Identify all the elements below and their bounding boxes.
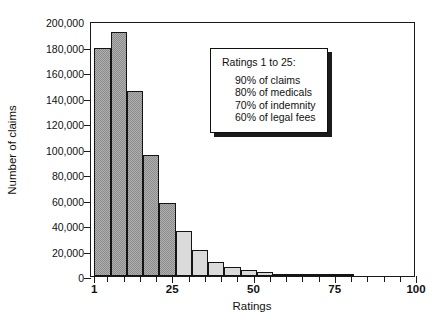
histogram-bar [224,267,240,276]
x-axis-tick-minor [107,276,108,282]
y-axis-tick-label: 80,000 [52,171,84,182]
x-axis-tick-minor [367,276,368,282]
chart-figure: Number of claims Ratings 020,00040,00060… [0,0,443,327]
x-axis-tick-minor [270,276,271,282]
x-axis-tick-minor [156,276,157,282]
x-axis-tick-minor [124,276,125,282]
y-axis-tick-label: 40,000 [52,222,84,233]
x-axis-tick-major [94,276,95,283]
y-axis-tick [84,151,91,152]
x-axis-title: Ratings [233,300,272,312]
x-axis-tick-major [416,276,417,283]
x-axis-tick-minor [140,276,141,282]
annotation-line: 80% of medicals [222,86,316,98]
y-axis-tick-label: 200,000 [46,18,84,29]
histogram-bar [322,274,338,276]
y-axis-tick-label: 60,000 [52,196,84,207]
y-axis-tick [84,202,91,203]
histogram-bar [289,274,305,276]
x-axis-tick-minor [302,276,303,282]
y-axis-tick [84,74,91,75]
annotation-box: Ratings 1 to 25: 90% of claims 80% of me… [210,48,328,133]
x-axis-tick-major [254,276,255,283]
x-axis-tick-minor [319,276,320,282]
x-axis-tick-label: 25 [166,284,179,296]
histogram-bar [143,155,159,276]
x-axis-tick-label: 75 [328,284,341,296]
annotation-heading: Ratings 1 to 25: [222,56,316,69]
y-axis-title: Number of claims [6,105,18,194]
x-axis-tick-minor [351,276,352,282]
histogram-bar [176,231,192,276]
histogram-bar [257,272,273,276]
annotation-line: 90% of claims [222,74,316,86]
x-axis-tick-label: 100 [406,284,425,296]
x-axis-tick-major [172,276,173,283]
annotation-content: Ratings 1 to 25: 90% of claims 80% of me… [210,48,328,133]
histogram-bar [208,262,224,276]
y-axis-tick-label: 180,000 [46,43,84,54]
y-axis-tick [84,253,91,254]
x-axis-tick-minor [221,276,222,282]
x-axis-tick-major [335,276,336,283]
y-axis-tick [84,227,91,228]
x-axis-tick-minor [205,276,206,282]
annotation-line: 60% of legal fees [222,111,316,123]
y-axis-tick [84,176,91,177]
y-axis-tick [84,100,91,101]
y-axis-tick-label: 20,000 [52,247,84,258]
x-axis-tick-label: 1 [91,284,97,296]
y-axis-tick [84,125,91,126]
histogram-bar [159,203,175,276]
histogram-bar [111,32,127,276]
x-axis-tick-minor [286,276,287,282]
histogram-bar [273,274,289,276]
histogram-bar [192,250,208,276]
x-axis-tick-label: 50 [247,284,260,296]
histogram-bar [241,270,257,276]
y-axis-tick [84,278,91,279]
y-axis-tick-label: 120,000 [46,120,84,131]
x-axis-tick-minor [189,276,190,282]
x-axis-tick-minor [384,276,385,282]
y-axis-tick-label: 100,000 [46,145,84,156]
histogram-bar [94,48,110,276]
annotation-line: 70% of indemnity [222,99,316,111]
y-axis-tick-label: 0 [78,273,84,284]
y-axis-tick-label: 140,000 [46,94,84,105]
histogram-bar [306,274,322,276]
x-axis-tick-minor [400,276,401,282]
histogram-bar [338,274,354,276]
histogram-bar [127,91,143,276]
y-axis-tick [84,49,91,50]
x-axis-tick-minor [237,276,238,282]
y-axis-tick-label: 160,000 [46,69,84,80]
